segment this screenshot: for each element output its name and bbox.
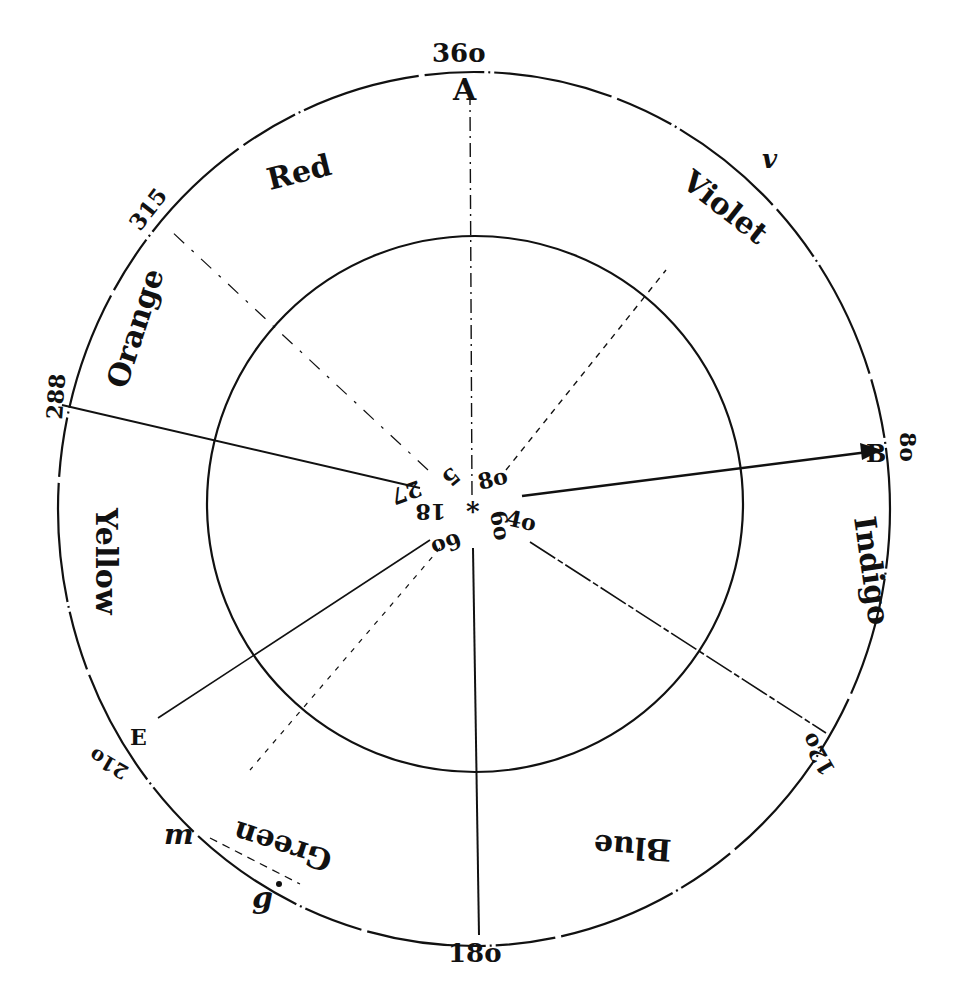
degree-label-80: 8o (895, 432, 921, 462)
degree-label-315: 315 (123, 183, 172, 235)
radius-to-A (470, 100, 472, 495)
center-label-60-lower-left: 6o (428, 527, 465, 562)
point-letter-v: v (762, 144, 778, 174)
point-letter-A: A (452, 72, 477, 107)
band-label-red: Red (263, 147, 335, 197)
color-wheel-diagram: 36o 315 288 21o 18o 12o 8o A B E v m g R… (0, 0, 958, 992)
point-letter-E: E (130, 724, 147, 750)
degree-label-288: 288 (41, 373, 70, 421)
center-label-5: 5 (437, 462, 465, 492)
radius-to-288 (62, 405, 420, 488)
degree-label-120: 12o (795, 728, 840, 780)
degree-label-180: 18o (448, 938, 502, 968)
band-label-violet: Violet (675, 162, 775, 251)
radius-to-E (158, 540, 430, 718)
center-label-60-below: 6o (485, 508, 516, 542)
band-label-green: Green (229, 814, 336, 879)
radius-to-120 (530, 542, 826, 733)
dashed-to-g (250, 548, 440, 770)
point-letter-m: m (164, 818, 194, 851)
band-label-blue: Blue (593, 828, 673, 868)
band-label-orange: Orange (99, 264, 170, 392)
center-label-18: 18 (415, 499, 446, 525)
point-g-dot (276, 881, 282, 887)
degree-label-360: 36o (432, 38, 486, 68)
dashed-to-315 (170, 230, 428, 470)
band-label-yellow: Yellow (89, 507, 124, 616)
point-letter-B: B (866, 439, 886, 468)
center-star-mark: * (466, 496, 480, 526)
point-letter-g: g (252, 880, 273, 915)
dashed-to-violet (506, 270, 666, 470)
center-label-80: 8o (475, 462, 510, 494)
radius-to-B (522, 452, 868, 496)
radius-to-180 (473, 548, 479, 935)
